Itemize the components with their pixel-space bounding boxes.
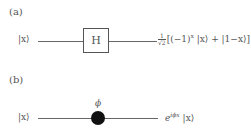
output-ket: |x⟩ (180, 113, 194, 123)
wire-a-right (109, 41, 157, 42)
prefactor-den: √2 (158, 40, 166, 46)
phase-label: ϕ (95, 98, 101, 108)
output-expr-1: [(−1) (167, 34, 191, 44)
panel-b-label: (b) (9, 74, 23, 85)
panel-a-label: (a) (9, 6, 23, 17)
hadamard-gate: H (83, 28, 109, 53)
panel-b-input: |x⟩ (18, 112, 30, 122)
panel-b-output: eiϕx |x⟩ (165, 111, 194, 123)
output-expr-2: |x⟩ + |1−x⟩] (194, 34, 250, 44)
phase-gate-dot (91, 111, 105, 125)
output-exp: iϕx (170, 111, 179, 118)
wire-a-left (38, 41, 83, 42)
panel-a-input: |x⟩ (18, 34, 30, 44)
panel-a-output: 1√2[(−1)x |x⟩ + |1−x⟩] (158, 32, 250, 46)
prefactor: 1√2 (158, 33, 166, 46)
